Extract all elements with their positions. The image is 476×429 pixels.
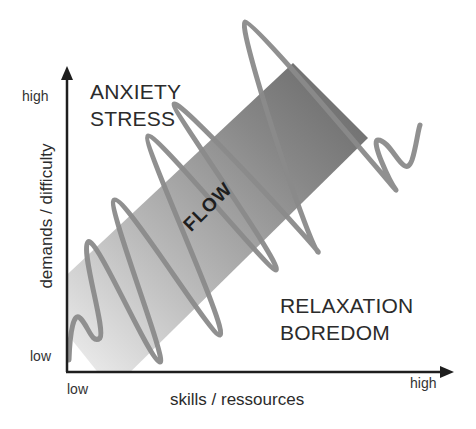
zone-label-relaxation: RELAXATION BOREDOM [280, 292, 413, 346]
zone-anxiety-line2: STRESS [90, 105, 181, 132]
x-axis-high-label: high [410, 375, 436, 391]
flow-diagram: ANXIETY STRESS RELAXATION BOREDOM FLOW h… [0, 0, 476, 429]
x-axis-low-label: low [67, 381, 88, 397]
zone-relaxation-line1: RELAXATION [280, 292, 413, 319]
zone-relaxation-line2: BOREDOM [280, 319, 413, 346]
zone-label-anxiety: ANXIETY STRESS [90, 78, 181, 132]
y-axis-low-label: low [30, 348, 51, 364]
y-axis-arrow-icon [61, 66, 73, 80]
zone-anxiety-line1: ANXIETY [90, 78, 181, 105]
x-axis-arrow-icon [440, 366, 454, 378]
y-axis-high-label: high [22, 88, 48, 104]
flow-diagram-graphic [0, 0, 476, 429]
y-axis-title: demands / difficulty [37, 136, 57, 296]
x-axis-title: skills / ressources [170, 390, 304, 410]
